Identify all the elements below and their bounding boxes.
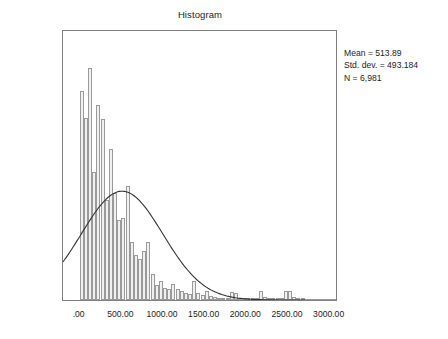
y-axis-tick: 800 (62, 47, 63, 57)
x-axis-tick-label: 3000.00 (313, 309, 344, 319)
stat-std-dev: Std. dev. = 493.184 (344, 59, 418, 71)
statistics-annotation: Mean = 513.89 Std. dev. = 493.184 N = 6,… (344, 47, 418, 84)
x-axis-tick-label: 500.00 (107, 309, 133, 319)
x-axis-tick-label: 2000.00 (230, 309, 261, 319)
histogram-figure: Histogram 0200400600800 Frequency .00500… (0, 0, 448, 339)
y-axis-tick-label: 800 (62, 47, 63, 57)
x-axis-tick-label: 2500.00 (271, 309, 302, 319)
normal-curve-svg (63, 31, 336, 300)
y-axis-tick: 0 (62, 296, 63, 301)
y-axis-tick: 600 (62, 109, 63, 119)
y-axis-tick: 200 (62, 234, 63, 244)
x-axis-tick-label: 1000.00 (146, 309, 177, 319)
x-axis-tick (80, 300, 81, 301)
plot-area: 0200400600800 Frequency (62, 30, 337, 301)
x-axis-tick (205, 300, 206, 301)
chart-title: Histogram (0, 9, 400, 20)
stat-mean: Mean = 513.89 (344, 47, 418, 59)
normal-curve-overlay (63, 31, 336, 300)
x-axis-tick (330, 300, 331, 301)
y-axis-tick-label: 200 (62, 234, 63, 244)
x-axis-tick (288, 300, 289, 301)
y-axis-tick-label: 400 (62, 171, 63, 181)
y-axis-tick-label: 600 (62, 109, 63, 119)
x-axis-tick (121, 300, 122, 301)
y-axis-tick-label: 0 (62, 296, 63, 301)
x-axis-tick-label: .00 (73, 309, 85, 319)
x-axis-tick-label: 1500.00 (188, 309, 219, 319)
y-axis-tick: 400 (62, 171, 63, 181)
x-axis-tick (246, 300, 247, 301)
stat-n: N = 6,981 (344, 72, 418, 84)
x-axis-tick (163, 300, 164, 301)
